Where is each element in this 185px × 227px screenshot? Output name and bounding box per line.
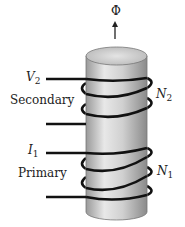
transformer-diagram (0, 0, 185, 227)
turns-symbol: N (157, 164, 168, 178)
secondary-label: Secondary (10, 93, 74, 107)
voltage-subscript: 2 (35, 76, 41, 86)
turns-subscript: 2 (167, 93, 173, 103)
iron-core (86, 47, 147, 220)
primary-label: Primary (18, 166, 67, 180)
flux-arrow (112, 21, 118, 39)
secondary-turns-label: N2 (156, 87, 172, 103)
voltage-symbol: V (26, 70, 35, 84)
turns-symbol: N (156, 87, 167, 101)
flux-label: Φ (111, 4, 121, 18)
turns-subscript: 1 (168, 170, 174, 180)
primary-current-label: I1 (28, 143, 38, 159)
current-subscript: 1 (33, 149, 39, 159)
secondary-voltage-label: V2 (26, 70, 40, 86)
primary-turns-label: N1 (157, 164, 173, 180)
